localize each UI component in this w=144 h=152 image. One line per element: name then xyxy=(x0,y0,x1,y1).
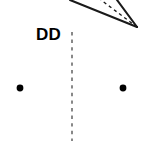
dd-label: DD xyxy=(36,25,61,44)
right-point xyxy=(120,85,127,92)
left-point xyxy=(17,85,24,92)
geometry-figure xyxy=(0,0,144,152)
diagram-canvas: DD xyxy=(0,0,144,152)
angle-rays xyxy=(70,0,137,27)
